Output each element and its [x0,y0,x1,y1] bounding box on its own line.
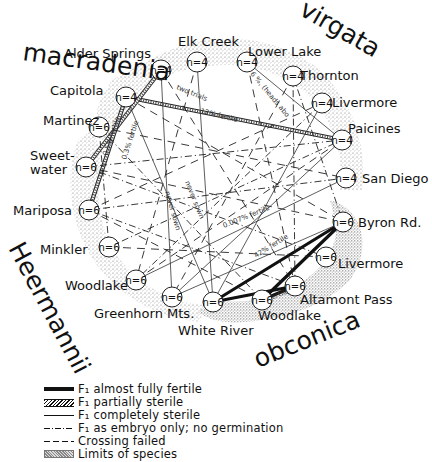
legend-row-partial: F₁ partially sterile [44,395,304,408]
chromosome-number: n=4 [335,173,356,184]
node-martinez: n=6Martinez [43,113,110,137]
chromosome-number: n=6 [78,205,99,216]
population-label: Woodlake [65,278,128,293]
legend-row-limits: Limits of species [44,447,304,460]
edge-failed [86,167,343,222]
legend-row-failed: Crossing failed [44,434,304,447]
population-label: Livermore [332,95,397,110]
chromosome-number: n=4 [331,135,352,146]
population-label: Elk Creek [178,34,240,49]
hatched-line-swatch-icon [44,397,74,407]
population-label: San Diego [362,171,428,186]
population-label: Thornton [299,68,359,83]
chromosome-number: n=6 [125,275,146,286]
population-label: Lower Lake [248,44,321,59]
population-label: White River [178,323,254,338]
dashdot-line-swatch-icon [44,423,74,433]
population-label: Altamont Pass [300,292,393,307]
line-note: 12% fertile [200,107,239,124]
legend-label: F₁ completely sterile [78,409,200,421]
population-label: Minkler [40,242,88,257]
chromosome-number: n=6 [161,292,182,303]
line-note: never sown [163,190,182,231]
species-label-heermannii: Heermannii [3,237,97,378]
chromosome-number: n=6 [75,162,96,173]
stipple-swatch-icon [44,449,74,459]
edge-embryo [109,140,342,247]
legend: F₁ almost fully fertile F₁ partially ste… [44,382,304,460]
node-livermore-top: n=4Livermore [311,93,397,113]
legend-row-embryo: F₁ as embryo only; no germination [44,421,304,434]
legend-label: Limits of species [78,448,177,460]
legend-label: Crossing failed [78,435,166,447]
thick-line-swatch-icon [44,384,74,394]
line-note: 0.3% fertile [120,120,140,161]
node-byron-rd: n=6Byron Rd. [332,212,421,232]
thin-line-swatch-icon [44,410,74,420]
chromosome-number: n=4 [115,92,136,103]
chromosome-number: n=4 [311,98,332,109]
line-note: 42% fertile [253,233,290,260]
population-label: Sweet- [30,148,75,163]
population-label: Mariposa [13,203,72,218]
line-note: two trials [175,83,208,103]
legend-row-fertile: F₁ almost fully fertile [44,382,304,395]
chromosome-number: n=6 [202,297,223,308]
edge-failed [136,140,342,280]
legend-label: F₁ partially sterile [78,396,183,408]
legend-label: F₁ as embryo only; no germination [78,422,283,434]
dashed-line-swatch-icon [44,436,74,446]
legend-row-sterile: F₁ completely sterile [44,408,304,421]
chromosome-number: n=4 [186,57,207,68]
population-label: Paicines [348,121,401,136]
population-label: Byron Rd. [358,215,421,230]
edge-embryo [86,167,326,257]
legend-label: F₁ almost fully fertile [78,383,202,395]
edge-embryo [293,76,295,286]
species-label-macradenia: macradenia [21,37,172,86]
node-minkler: n=6Minkler [40,237,120,257]
chromosome-number: n=6 [332,217,353,228]
population-label: Capitola [50,83,104,98]
chromosome-number: n=6 [284,281,305,292]
population-label: Livermore [338,256,403,271]
chromosome-number: n=6 [98,242,119,253]
line-note: never sown [183,180,206,220]
node-san-diego: n=4San Diego [335,168,428,188]
chromosome-number: n=6 [315,252,336,263]
chromosome-number: n=6 [251,295,272,306]
population-label: Greenhorn Mts. [94,306,194,321]
population-label: water [30,162,68,177]
node-mariposa: n=6Mariposa [13,200,100,220]
population-label: Martinez [43,113,99,128]
